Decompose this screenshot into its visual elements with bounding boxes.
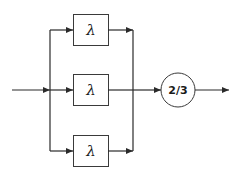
block-bottom-label: λ <box>85 142 96 160</box>
diagram-canvas: λ λ λ 2/3 <box>0 0 239 178</box>
voter-node: 2/3 <box>161 73 195 107</box>
block-top-label: λ <box>85 21 96 39</box>
block-middle: λ <box>74 75 109 106</box>
block-top: λ <box>74 15 109 46</box>
voter-label: 2/3 <box>168 84 187 97</box>
block-bottom: λ <box>74 136 109 167</box>
block-middle-label: λ <box>85 81 96 99</box>
